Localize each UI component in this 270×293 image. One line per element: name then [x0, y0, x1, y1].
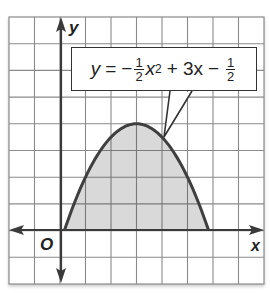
- eq-coef-fraction: 1 2: [134, 56, 143, 83]
- eq-coef-num: 1: [134, 56, 143, 70]
- eq-lhs: y: [91, 58, 101, 80]
- eq-term2: 3x: [183, 58, 203, 80]
- origin-label: O: [40, 235, 53, 254]
- eq-const-fraction: 1 2: [226, 56, 235, 83]
- eq-plus: +: [167, 58, 178, 80]
- eq-equals: =: [105, 58, 116, 80]
- eq-minus-1: −: [121, 58, 132, 80]
- coordinate-plane: y x O: [0, 0, 270, 293]
- eq-minus-2: −: [208, 58, 219, 80]
- eq-const-num: 1: [226, 56, 235, 70]
- x-axis-label: x: [250, 237, 261, 254]
- equation-callout: y = − 1 2 x2 + 3x − 1 2: [71, 47, 257, 91]
- eq-exponent: 2: [155, 62, 162, 76]
- eq-const-den: 2: [227, 70, 234, 83]
- y-axis-label: y: [68, 18, 80, 37]
- eq-x-var: x: [146, 58, 156, 80]
- eq-coef-den: 2: [135, 70, 142, 83]
